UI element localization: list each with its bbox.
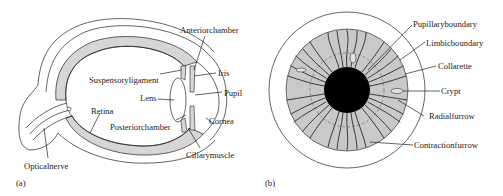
label-pupil: Pupil [224, 88, 243, 98]
label-contraction-furrow: Contractionfurrow [414, 140, 479, 150]
label-crypt: Crypt [441, 86, 461, 96]
label-collarette: Collarette [438, 61, 472, 71]
label-cornea: Cornea [209, 116, 234, 126]
label-suspensory-ligament: Suspensoryligament [89, 75, 159, 85]
label-pupillary-boundary: Pupillaryboundary [413, 19, 478, 29]
crypt-shape-3 [350, 53, 356, 63]
label-iris: Iris [218, 68, 230, 78]
label-optical-nerve: Opticalnerve [24, 161, 69, 171]
iris-lower [190, 106, 195, 130]
leader-iris [194, 73, 216, 76]
label-anterior-chamber: Anteriorchamber [180, 25, 239, 35]
optic-nerve [26, 103, 72, 140]
crypt-shape-2 [296, 68, 306, 72]
leader-suspensory-ligament [160, 70, 182, 74]
suspensory-ligament-lower [181, 118, 187, 132]
label-retina: Retina [91, 106, 114, 116]
panel-a-eye-cross-section: Anteriorchamber Iris Suspensoryligament … [16, 19, 243, 188]
panel-b-iris-front-view: Pupillaryboundary Limbicboundary Collare… [265, 12, 484, 188]
panel-tag-a: (a) [16, 178, 26, 188]
optic-disc [67, 107, 71, 111]
crypt-shape [391, 89, 403, 94]
label-ciliary-muscle: Ciliarymuscle [186, 150, 234, 160]
leader-optical-nerve [44, 128, 48, 158]
label-radial-furrow: Radialfurrow [429, 111, 476, 121]
leader-retina [90, 113, 100, 133]
panel-tag-b: (b) [265, 178, 275, 188]
suspensory-ligament-upper [181, 66, 186, 80]
label-posterior-chamber: Posteriorchamber [110, 122, 171, 132]
label-limbic-boundary: Limbicboundary [426, 38, 484, 48]
leader-anterior-chamber [194, 36, 205, 70]
label-lens: Lens [140, 93, 157, 103]
pupil-disc [324, 67, 370, 113]
eye-anatomy-figure: Anteriorchamber Iris Suspensoryligament … [0, 0, 503, 196]
